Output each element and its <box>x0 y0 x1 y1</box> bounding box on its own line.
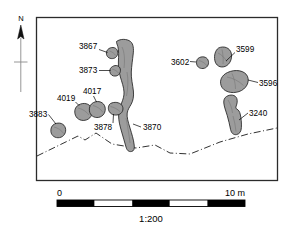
feature-3870-outline <box>116 39 134 151</box>
feature-3883 <box>51 123 66 138</box>
label-3883: 3883 <box>29 110 48 119</box>
label-3599: 3599 <box>236 45 255 54</box>
north-arrow: N <box>14 14 28 92</box>
scalebar-segment-3 <box>132 200 170 207</box>
feature-4017 <box>89 102 105 118</box>
feature-3596 <box>221 71 249 93</box>
label-3240: 3240 <box>249 109 268 118</box>
scalebar-segment-1 <box>57 200 95 207</box>
site-plan-figure: N <box>0 0 292 240</box>
label-3873: 3873 <box>79 66 98 75</box>
feature-3873-outline <box>110 66 121 77</box>
north-label: N <box>18 14 23 23</box>
feature-3878 <box>108 102 123 115</box>
feature-3878-outline <box>108 102 123 115</box>
feature-3602-outline <box>196 57 208 69</box>
scalebar-start-label: 0 <box>57 188 62 198</box>
label-4019: 4019 <box>57 94 76 103</box>
feature-3870 <box>116 39 134 151</box>
label-4017: 4017 <box>83 87 102 96</box>
label-3602: 3602 <box>171 58 190 67</box>
field-boundary-line <box>37 128 277 156</box>
label-3878: 3878 <box>94 123 113 132</box>
label-3596: 3596 <box>259 79 278 88</box>
feature-3867-outline <box>106 47 117 58</box>
scalebar-segments <box>57 200 245 207</box>
leader-3602 <box>190 62 196 63</box>
feature-3596-outline <box>221 71 249 93</box>
feature-3240 <box>224 95 242 135</box>
leader-3867 <box>99 50 108 53</box>
leader-3596 <box>248 80 258 83</box>
leader-4017 <box>94 96 97 102</box>
feature-3867 <box>106 47 117 58</box>
feature-3883-outline <box>51 123 66 138</box>
leader-3883 <box>49 115 57 125</box>
feature-3873 <box>110 66 121 77</box>
scale-ratio-label: 1:200 <box>139 213 163 224</box>
scalebar-segment-2 <box>95 200 133 207</box>
leader-4019 <box>76 102 80 106</box>
scalebar-segment-4 <box>170 200 208 207</box>
scale-bar: 0 10 m 1:200 <box>57 188 245 224</box>
north-arrowhead <box>18 25 24 39</box>
site-plan-svg: N <box>0 0 292 240</box>
scalebar-segment-5 <box>207 200 245 207</box>
feature-4017-outline <box>89 102 105 118</box>
feature-3240-outline <box>224 95 242 135</box>
leader-3878 <box>113 114 114 123</box>
feature-3599 <box>215 47 232 67</box>
label-3867: 3867 <box>79 42 98 51</box>
scalebar-end-label: 10 m <box>225 188 245 198</box>
label-3870: 3870 <box>143 123 162 132</box>
leader-3870 <box>133 124 141 127</box>
feature-3602 <box>196 57 208 69</box>
